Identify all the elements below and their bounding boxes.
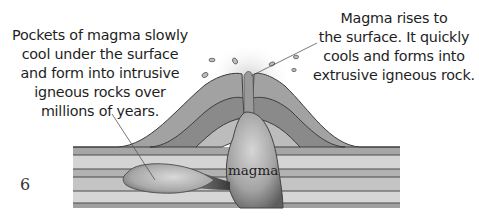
caption-line: Pockets of magma slowly xyxy=(10,26,190,45)
caption-line: millions of years. xyxy=(10,102,190,121)
caption-line: igneous rocks over xyxy=(10,83,190,102)
caption-line: the surface. It quickly xyxy=(305,28,479,47)
caption-line: Magma rises to xyxy=(305,9,479,28)
caption-extrusive: Magma rises to the surface. It quickly c… xyxy=(305,9,479,85)
caption-line: extrusive igneous rock. xyxy=(305,66,479,85)
magma-label: magma xyxy=(228,162,278,178)
page-number: 6 xyxy=(20,175,30,194)
caption-line: and form into intrusive xyxy=(10,64,190,83)
caption-line: cools and forms into xyxy=(305,47,479,66)
caption-intrusive: Pockets of magma slowly cool under the s… xyxy=(10,26,190,121)
caption-line: cool under the surface xyxy=(10,45,190,64)
